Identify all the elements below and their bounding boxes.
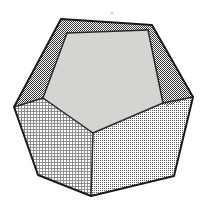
- speck-artifact-center: [62, 93, 64, 95]
- speck-artifact-top: [111, 12, 113, 14]
- figure-canvas: [0, 0, 208, 211]
- faces-group: [14, 19, 193, 196]
- dodecahedron-figure: [0, 0, 208, 211]
